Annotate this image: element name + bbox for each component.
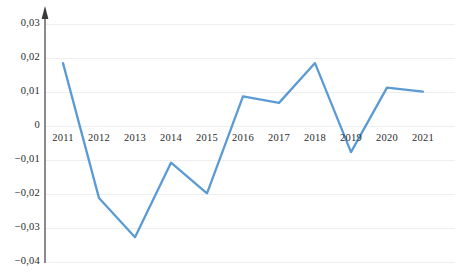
x-axis-tick-label: 2017: [261, 132, 297, 143]
x-axis-tick-label: 2016: [225, 132, 261, 143]
x-axis-tick-label: 2015: [189, 132, 225, 143]
x-axis-tick-label: 2019: [333, 132, 369, 143]
x-axis-tick-label: 2014: [153, 132, 189, 143]
x-axis-tick-label: 2012: [81, 132, 117, 143]
series-line-1: [63, 63, 423, 237]
y-axis-tick-label: −0,01: [15, 153, 40, 164]
y-axis-tick-label: 0,03: [21, 17, 40, 28]
y-axis-tick-label: 0,01: [21, 85, 40, 96]
data-series: [63, 63, 423, 237]
y-axis-tick-label: −0,03: [15, 221, 40, 232]
x-axis-tick-label: 2021: [405, 132, 441, 143]
line-chart: 0,030,020,010−0,01−0,02−0,03−0,04 201120…: [0, 0, 467, 277]
y-axis-tick-label: −0,04: [15, 255, 40, 266]
x-axis-tick-label: 2013: [117, 132, 153, 143]
x-axis-tick-label: 2011: [45, 132, 81, 143]
y-axis-arrow-icon: [42, 6, 49, 19]
y-axis-tick-label: 0: [35, 119, 40, 130]
y-axis-tick-label: −0,02: [15, 187, 40, 198]
x-axis-tick-label: 2020: [369, 132, 405, 143]
y-axis-tick-label: 0,02: [21, 51, 40, 62]
x-axis-tick-label: 2018: [297, 132, 333, 143]
gridlines: [45, 24, 455, 262]
